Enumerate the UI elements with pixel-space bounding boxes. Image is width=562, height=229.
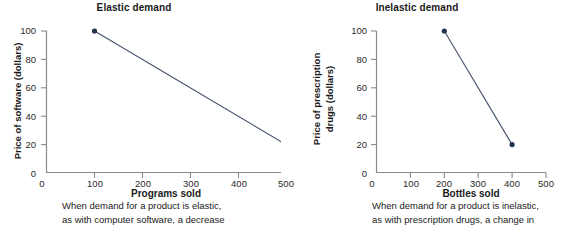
data-point-marker [510, 142, 515, 147]
plot-area-inelastic [281, 0, 562, 200]
data-point-marker [442, 28, 447, 33]
x-tick-label: 500 [531, 178, 561, 189]
x-tick-label: 400 [224, 178, 254, 189]
caption-inelastic: When demand for a product is inelastic, … [372, 199, 562, 226]
x-axis-label-elastic: Programs sold [106, 188, 226, 199]
demand-curve-line [444, 31, 512, 145]
plot-area-elastic [0, 0, 281, 200]
chart-panel-elastic: Elastic demand Price of software (dollar… [0, 0, 281, 229]
x-tick-label: 0 [362, 178, 382, 189]
plot-svg-inelastic [281, 0, 562, 200]
x-tick-label: 0 [32, 178, 52, 189]
plot-svg-elastic [0, 0, 281, 200]
x-axis-label-inelastic: Bottles sold [421, 188, 521, 199]
caption-elastic: When demand for a product is elastic, as… [62, 199, 277, 226]
data-point-marker [92, 28, 97, 33]
demand-curve-line [95, 31, 282, 145]
chart-panel-inelastic: Inelastic demand Price of prescription d… [281, 0, 562, 229]
figure-container: Elastic demand Price of software (dollar… [0, 0, 562, 229]
